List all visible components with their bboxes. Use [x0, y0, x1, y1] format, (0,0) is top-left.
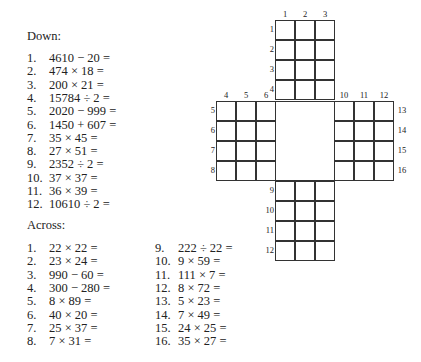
top-block-cell[interactable] [275, 40, 295, 60]
right-block-cell[interactable] [374, 121, 394, 141]
clue-number: 15. [155, 321, 171, 335]
bottom-block-cell[interactable] [295, 221, 315, 241]
left-block-cell[interactable] [216, 101, 236, 121]
top-block-cell[interactable] [295, 80, 315, 100]
top-block-cell[interactable] [275, 20, 295, 40]
column-label: 6 [259, 91, 273, 100]
clue-number: 9. [27, 157, 36, 171]
clue-expression: 35 × 27 = [178, 334, 226, 348]
top-block-cell[interactable] [315, 60, 335, 80]
row-label: 2 [260, 45, 274, 54]
clue-expression: 5 × 23 = [178, 294, 220, 308]
left-block-cell[interactable] [216, 121, 236, 141]
top-block-cell[interactable] [315, 20, 335, 40]
clue-number: 1. [27, 241, 36, 255]
clue-expression: 8 × 89 = [49, 294, 91, 308]
bottom-block-cell[interactable] [295, 181, 315, 201]
column-label: 2 [298, 10, 312, 19]
clue-number: 6. [27, 308, 36, 322]
right-block-cell[interactable] [374, 101, 394, 121]
across-heading: Across: [27, 218, 65, 232]
row-label: 7 [201, 146, 215, 155]
row-label: 14 [395, 126, 409, 135]
top-block-cell[interactable] [315, 40, 335, 60]
right-block-cell[interactable] [354, 121, 374, 141]
row-label: 13 [395, 106, 409, 115]
left-block-cell[interactable] [256, 161, 276, 181]
bottom-block-cell[interactable] [275, 181, 295, 201]
left-block-cell[interactable] [236, 101, 256, 121]
clue-expression: 40 × 20 = [49, 308, 97, 322]
clue-number: 5. [27, 104, 36, 118]
clue-expression: 2020 − 999 = [49, 104, 116, 118]
left-block-cell[interactable] [256, 141, 276, 161]
clue-number: 11. [155, 268, 170, 282]
row-label: 10 [260, 206, 274, 215]
bottom-block-cell[interactable] [315, 241, 335, 261]
clue-number: 9. [155, 241, 164, 255]
row-label: 8 [201, 166, 215, 175]
top-block-cell[interactable] [275, 80, 295, 100]
right-block-cell[interactable] [354, 161, 374, 181]
clue-expression: 36 × 39 = [49, 184, 97, 198]
row-label: 3 [260, 65, 274, 74]
clue-number: 14. [155, 308, 171, 322]
left-block-cell[interactable] [236, 161, 256, 181]
column-label: 10 [337, 91, 351, 100]
column-label: 5 [239, 91, 253, 100]
top-block-cell[interactable] [295, 20, 315, 40]
top-block-cell[interactable] [295, 40, 315, 60]
clue-number: 3. [27, 78, 36, 92]
left-block-cell[interactable] [216, 141, 236, 161]
clue-expression: 35 × 45 = [49, 131, 97, 145]
clue-expression: 24 × 25 = [178, 321, 226, 335]
clue-number: 4. [27, 91, 36, 105]
row-label: 16 [395, 166, 409, 175]
row-label: 1 [260, 25, 274, 34]
bottom-block-cell[interactable] [275, 241, 295, 261]
bottom-block-cell[interactable] [295, 201, 315, 221]
bottom-block-cell[interactable] [315, 201, 335, 221]
clue-number: 4. [27, 281, 36, 295]
right-block-cell[interactable] [374, 161, 394, 181]
clue-number: 16. [155, 334, 171, 348]
left-block-cell[interactable] [256, 121, 276, 141]
column-label: 3 [318, 10, 332, 19]
row-label: 12 [260, 246, 274, 255]
bottom-block-cell[interactable] [295, 241, 315, 261]
clue-number: 12. [27, 197, 43, 211]
right-block-cell[interactable] [354, 101, 374, 121]
clue-expression: 15784 ÷ 2 = [49, 91, 110, 105]
left-block-cell[interactable] [236, 141, 256, 161]
right-block-cell[interactable] [334, 101, 354, 121]
clue-expression: 9 × 59 = [178, 254, 220, 268]
clue-number: 1. [27, 51, 36, 65]
top-block-cell[interactable] [275, 60, 295, 80]
right-block-cell[interactable] [354, 141, 374, 161]
right-block-cell[interactable] [374, 141, 394, 161]
bottom-block-cell[interactable] [315, 221, 335, 241]
column-label: 11 [357, 91, 371, 100]
clue-number: 10. [155, 254, 171, 268]
column-label: 12 [377, 91, 391, 100]
clue-expression: 10610 ÷ 2 = [49, 197, 110, 211]
right-block-cell[interactable] [334, 161, 354, 181]
row-label: 6 [201, 126, 215, 135]
top-block-cell[interactable] [295, 60, 315, 80]
bottom-block-cell[interactable] [275, 221, 295, 241]
bottom-block-cell[interactable] [315, 181, 335, 201]
clue-number: 11. [27, 184, 42, 198]
clue-expression: 222 ÷ 22 = [178, 241, 233, 255]
clue-number: 5. [27, 294, 36, 308]
left-block-cell[interactable] [236, 121, 256, 141]
top-block-cell[interactable] [315, 80, 335, 100]
column-label: 1 [278, 10, 292, 19]
row-label: 15 [395, 146, 409, 155]
clue-number: 8. [27, 144, 36, 158]
column-label: 4 [219, 91, 233, 100]
bottom-block-cell[interactable] [275, 201, 295, 221]
left-block-cell[interactable] [256, 101, 276, 121]
right-block-cell[interactable] [334, 121, 354, 141]
right-block-cell[interactable] [334, 141, 354, 161]
left-block-cell[interactable] [216, 161, 236, 181]
